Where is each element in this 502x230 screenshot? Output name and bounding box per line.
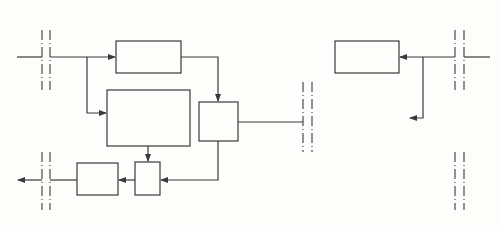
nt-hybrid-block bbox=[199, 102, 238, 141]
nt-branch-to-echo bbox=[87, 57, 106, 113]
nt-receiver-block bbox=[77, 163, 118, 195]
reference-point-t-bottom bbox=[42, 152, 50, 210]
reference-point-v1-bottom bbox=[455, 152, 464, 210]
lt-branch-to-echo bbox=[410, 57, 423, 118]
nt-summer-block bbox=[135, 162, 160, 195]
nt-transmitter-block bbox=[116, 41, 181, 73]
nt-echo-canceller-block bbox=[107, 90, 190, 146]
echo-cancellation-diagram bbox=[0, 0, 502, 230]
reference-point-v1-top bbox=[455, 30, 464, 90]
reference-point-u bbox=[303, 82, 312, 152]
lt-transmitter-block bbox=[335, 41, 399, 73]
reference-point-t-top bbox=[42, 30, 50, 90]
nt-hybrid-to-sum bbox=[161, 141, 218, 180]
